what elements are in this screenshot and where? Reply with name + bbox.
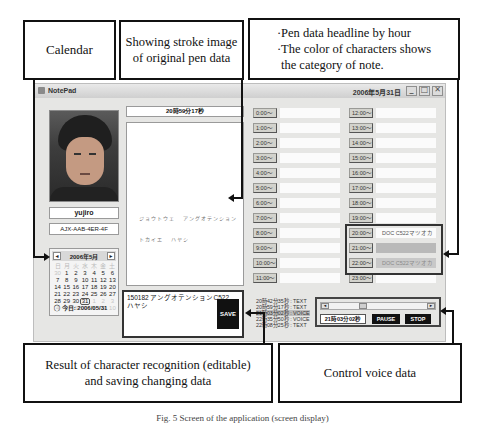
hour-headline-9[interactable] [280, 243, 340, 253]
calendar-day[interactable]: 14 [53, 284, 62, 291]
calendar-day[interactable]: 3 [108, 298, 117, 305]
arrow-headline-icon [443, 250, 449, 258]
hour-headline-7[interactable] [280, 213, 340, 223]
calendar-day[interactable]: 11 [90, 277, 99, 284]
hour-button-10[interactable]: 10:00～ [253, 258, 277, 268]
hour-headline-8[interactable] [280, 228, 340, 238]
calendar-day[interactable]: 13 [108, 277, 117, 284]
hour-button-17[interactable]: 17:00～ [349, 183, 373, 193]
hour-button-14[interactable]: 14:00～ [349, 138, 373, 148]
calendar-day[interactable]: 9 [71, 277, 80, 284]
hour-headline-15[interactable] [376, 153, 436, 163]
hour-button-4[interactable]: 4:00～ [253, 168, 277, 178]
hour-button-1[interactable]: 1:00～ [253, 123, 277, 133]
weekday-thu: 木 [90, 263, 99, 270]
calendar-day[interactable]: 7 [53, 277, 62, 284]
weekday-tue: 火 [71, 263, 80, 270]
calendar-day[interactable]: 24 [80, 291, 89, 298]
title-bar[interactable]: NotePad 2006年5月31日 _ □ ✕ [34, 84, 445, 98]
calendar-prev-button[interactable]: ◄ [53, 252, 61, 260]
stop-button[interactable]: STOP [405, 314, 431, 324]
calendar-day[interactable]: 4 [90, 270, 99, 277]
calendar-day[interactable]: 5 [99, 270, 108, 277]
hour-headline-5[interactable] [280, 183, 340, 193]
hour-button-18[interactable]: 18:00～ [349, 198, 373, 208]
calendar-today-link[interactable]: ◯ 今日: 2006/05/31 [54, 303, 107, 312]
hour-headline-1[interactable] [280, 123, 340, 133]
calendar-day[interactable]: 18 [90, 284, 99, 291]
calendar-day[interactable]: 21 [53, 291, 62, 298]
hour-headline-17[interactable] [376, 183, 436, 193]
close-button[interactable]: ✕ [432, 86, 443, 96]
calendar-day[interactable]: 23 [71, 291, 80, 298]
hour-button-7[interactable]: 7:00～ [253, 213, 277, 223]
hour-headline-14[interactable] [376, 138, 436, 148]
hour-button-0[interactable]: 0:00～ [253, 108, 277, 118]
calendar-day[interactable]: 20 [108, 284, 117, 291]
calendar-day[interactable]: 1 [62, 270, 71, 277]
hour-button-16[interactable]: 16:00～ [349, 168, 373, 178]
app-title: NotePad [48, 87, 76, 94]
hour-headline-4[interactable] [280, 168, 340, 178]
hour-button-11[interactable]: 11:00～ [253, 273, 277, 283]
weekday-sun: 日 [53, 263, 62, 270]
weekday-fri: 金 [99, 263, 108, 270]
photo-eye-right [89, 153, 96, 155]
calendar-day[interactable]: 2 [71, 270, 80, 277]
calendar-day[interactable]: 26 [99, 291, 108, 298]
hour-headline-3[interactable] [280, 153, 340, 163]
hour-button-9[interactable]: 9:00～ [253, 243, 277, 253]
stroke-canvas[interactable]: ジョウトウェ アングオテンション トカイエ ハヤシ [126, 122, 244, 286]
calendar-day[interactable]: 6 [108, 270, 117, 277]
seek-right-arrow-icon[interactable]: ► [427, 303, 435, 309]
calendar-day[interactable]: 8 [62, 277, 71, 284]
calendar-day[interactable]: 3 [80, 270, 89, 277]
minimize-button[interactable]: _ [406, 86, 417, 96]
hour-button-13[interactable]: 13:00～ [349, 123, 373, 133]
save-button[interactable]: SAVE [217, 299, 239, 329]
hour-button-2[interactable]: 2:00～ [253, 138, 277, 148]
hour-headline-0[interactable] [280, 108, 340, 118]
calendar-day[interactable]: 12 [99, 277, 108, 284]
calendar-day[interactable]: 17 [80, 284, 89, 291]
calendar-next-button[interactable]: ► [107, 252, 115, 260]
user-name: yujiro [49, 207, 119, 219]
hour-button-19[interactable]: 19:00～ [349, 213, 373, 223]
calendar-day[interactable]: 22 [62, 291, 71, 298]
stroke-line-1: ジョウトウェ アングオテンション [139, 215, 237, 222]
pause-button[interactable]: PAUSE [372, 314, 400, 324]
calendar-day[interactable]: 25 [90, 291, 99, 298]
hour-headline-2[interactable] [280, 138, 340, 148]
calendar-day[interactable]: 15 [62, 284, 71, 291]
hour-button-5[interactable]: 5:00～ [253, 183, 277, 193]
photo-face [66, 137, 104, 185]
calendar-day[interactable]: 30 [53, 270, 62, 277]
hour-button-12[interactable]: 12:00～ [349, 108, 373, 118]
hour-headline-10[interactable] [280, 258, 340, 268]
calendar-day[interactable]: 16 [71, 284, 80, 291]
arrow-calendar-icon [44, 253, 50, 261]
hour-button-3[interactable]: 3:00～ [253, 153, 277, 163]
callout-calendar: Calendar [23, 20, 116, 80]
hour-button-15[interactable]: 15:00～ [349, 153, 373, 163]
hour-headline-12[interactable] [376, 108, 436, 118]
hour-button-8[interactable]: 8:00～ [253, 228, 277, 238]
hour-headline-11[interactable] [280, 273, 340, 283]
hour-button-6[interactable]: 6:00～ [253, 198, 277, 208]
voice-seek-bar[interactable]: ◄ ► [320, 302, 436, 310]
calendar-day[interactable]: 10 [80, 277, 89, 284]
today-label: 今日: 2006/05/31 [62, 305, 108, 311]
connector-stroke-h [234, 197, 243, 199]
seek-left-arrow-icon[interactable]: ◄ [321, 303, 329, 309]
calendar-day[interactable]: 10 [108, 305, 117, 312]
hour-headline-6[interactable] [280, 198, 340, 208]
seek-thumb[interactable] [359, 303, 367, 309]
hour-headline-16[interactable] [376, 168, 436, 178]
calendar-day[interactable]: 27 [108, 291, 117, 298]
hour-headline-19[interactable] [376, 213, 436, 223]
stroke-line-2: トカイエ ハヤシ [139, 236, 237, 243]
hour-headline-18[interactable] [376, 198, 436, 208]
maximize-button[interactable]: □ [419, 86, 430, 96]
calendar-day[interactable]: 19 [99, 284, 108, 291]
hour-headline-13[interactable] [376, 123, 436, 133]
